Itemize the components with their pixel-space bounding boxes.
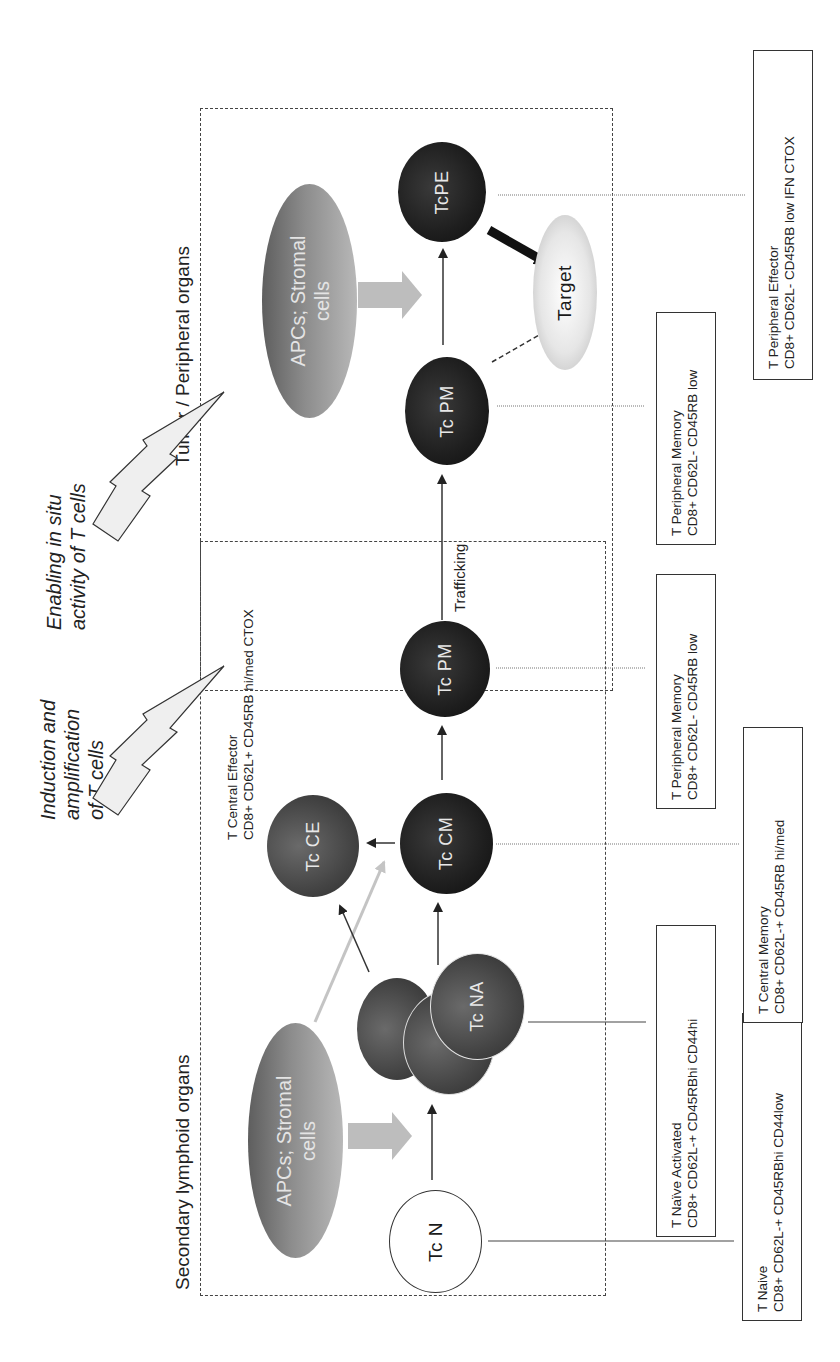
tc-ce-label: Tc CE xyxy=(302,821,323,872)
tc-na-cell: Tc NA xyxy=(430,953,525,1060)
central-effector-title: T Central Effector xyxy=(225,609,241,840)
apc-upper-line-1: APCs; Stromal xyxy=(286,235,310,366)
peripheral-memory-lower-title: T Peripheral Memory xyxy=(669,634,685,800)
peripheral-memory-upper-box: T Peripheral Memory CD8+ CD62L- CD45RB l… xyxy=(656,312,716,545)
naive-markers: CD8+ CD62L-+ CD45RBhi CD44low xyxy=(771,1093,787,1312)
lightning-bolt-enabling-icon xyxy=(93,392,224,541)
apc-stromal-upper: APCs; Stromal cells xyxy=(262,184,357,418)
tcna-to-tcce-arrow xyxy=(340,906,369,972)
stimulus-arrow-lower-icon xyxy=(348,1112,412,1160)
apc-stromal-lower: APCs; Stromal cells xyxy=(248,1023,343,1258)
naive-box: T Naive CD8+ CD62L-+ CD45RBhi CD44low xyxy=(742,1013,802,1321)
peripheral-memory-lower-box: T Peripheral Memory CD8+ CD62L- CD45RB l… xyxy=(656,574,716,809)
central-memory-box: T Central Memory CD8+ CD62L-+ CD45RB hi/… xyxy=(743,727,803,1023)
tc-pm-upper-cell: Tc PM xyxy=(405,357,489,465)
apc-lower-line-2: cells xyxy=(296,1075,320,1206)
target-cell: Target xyxy=(533,215,597,370)
tc-cm-label: Tc CM xyxy=(436,817,457,871)
apc-lower-line-1: APCs; Stromal xyxy=(272,1075,296,1206)
tc-ce-cell: Tc CE xyxy=(267,795,359,897)
trafficking-label: Trafficking xyxy=(451,544,468,612)
central-effector-markers: CD8+ CD62L+ CD45RB hi/med CTOX xyxy=(241,609,257,840)
tc-pm-lower-cell: Tc PM xyxy=(400,621,490,717)
peripheral-memory-upper-markers: CD8+ CD62L- CD45RB low xyxy=(685,370,701,536)
peripheral-memory-upper-title: T Peripheral Memory xyxy=(669,370,685,536)
apc-upper-line-2: cells xyxy=(310,235,334,366)
peripheral-effector-title: T Peripheral Effector xyxy=(766,136,782,369)
tc-pm-upper-label: Tc PM xyxy=(436,385,457,438)
peripheral-effector-markers: CD8+ CD62L- CD45RB low IFN CTOX xyxy=(782,136,798,369)
central-memory-markers: CD8+ CD62L-+ CD45RB hi/med xyxy=(772,820,788,1014)
central-effector-annotation: T Central Effector CD8+ CD62L+ CD45RB hi… xyxy=(225,609,257,840)
tc-pe-label: TcPE xyxy=(431,170,452,214)
central-memory-title: T Central Memory xyxy=(756,820,772,1014)
tc-pm-lower-label: Tc PM xyxy=(434,643,455,696)
naive-activated-title: T Naïve Activated xyxy=(669,1019,685,1228)
naive-title: T Naive xyxy=(755,1093,771,1312)
target-label: Target xyxy=(554,265,576,321)
naive-activated-markers: CD8+ CD62L-+ CD45RBhi CD44hi xyxy=(685,1019,701,1228)
naive-activated-box: T Naïve Activated CD8+ CD62L-+ CD45RBhi … xyxy=(656,925,716,1237)
tc-n-label: Tc N xyxy=(425,1222,447,1262)
tc-n-cell: Tc N xyxy=(389,1190,482,1293)
peripheral-effector-box: T Peripheral Effector CD8+ CD62L- CD45RB… xyxy=(753,50,813,380)
tc-pe-cell: TcPE xyxy=(398,142,486,242)
tc-na-label: Tc NA xyxy=(467,981,488,1032)
lightning-bolt-induction-icon xyxy=(93,666,224,815)
peripheral-memory-lower-markers: CD8+ CD62L- CD45RB low xyxy=(685,634,701,800)
tc-cm-cell: Tc CM xyxy=(400,793,493,894)
stimulus-arrow-upper-icon xyxy=(358,271,422,319)
